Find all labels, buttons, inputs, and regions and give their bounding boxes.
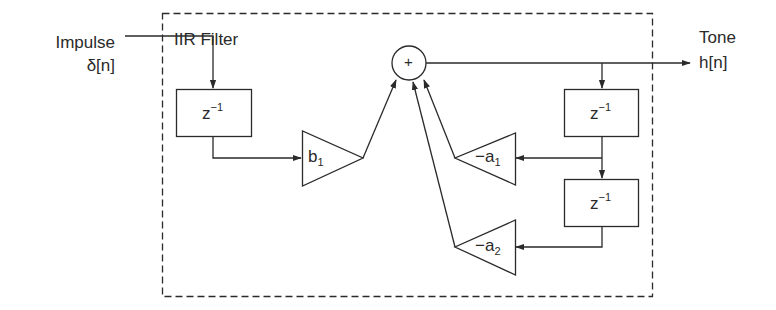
delay-label-exp: −1 [211,101,224,113]
output-name-label: Tone [699,29,736,46]
delay-label-exp: −1 [599,101,612,113]
delay-output-2-label: z−1 [590,193,611,212]
iir-filter-diagram [0,0,776,310]
delay-label-base: z [590,194,599,213]
delay-label-base: z [202,104,211,123]
delay-to-b1-line [213,137,301,158]
delay-input-label: z−1 [202,103,223,122]
output-signal-label: h[n] [699,54,727,71]
a1-to-summer-line [424,80,455,158]
gain-label-base: −a [475,236,494,255]
gain-label-sub: 1 [494,156,500,168]
delay-label-base: z [590,104,599,123]
gain-label-sub: 2 [494,245,500,257]
summer-symbol: + [404,54,413,69]
delay2-to-a2-line [516,227,602,247]
gain-label-sub: 1 [317,156,323,168]
gain-a1-label: −a1 [475,148,501,168]
delay-output-1-label: z−1 [590,103,611,122]
container-title: IIR Filter [174,31,238,48]
input-signal-label: δ[n] [87,57,115,74]
delay-label-exp: −1 [599,191,612,203]
input-name-label: Impulse [55,34,115,51]
gain-label-base: −a [475,147,494,166]
gain-a2-label: −a2 [475,237,501,257]
b1-to-summer-line [363,80,396,158]
gain-b1-label: b1 [308,148,324,168]
